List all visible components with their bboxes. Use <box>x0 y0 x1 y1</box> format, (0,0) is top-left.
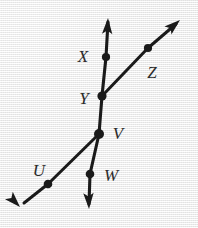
point-dot-W <box>86 170 95 179</box>
point-label-Y: Y <box>79 90 88 107</box>
diagram-canvas <box>0 0 198 228</box>
point-label-X: X <box>78 48 88 65</box>
ray-upper-right <box>102 24 176 96</box>
point-dot-X <box>102 53 110 61</box>
point-label-Z: Z <box>147 64 156 81</box>
point-dot-U <box>44 180 53 189</box>
point-dot-V <box>94 129 104 139</box>
arrowhead-lower-left-icon <box>5 192 24 211</box>
point-dot-Y <box>97 91 106 100</box>
geometry-figure: X Z Y V U W <box>0 0 198 228</box>
point-dot-Z <box>144 44 152 52</box>
point-label-V: V <box>113 125 123 142</box>
point-label-U: U <box>33 162 45 179</box>
point-label-W: W <box>104 167 118 184</box>
